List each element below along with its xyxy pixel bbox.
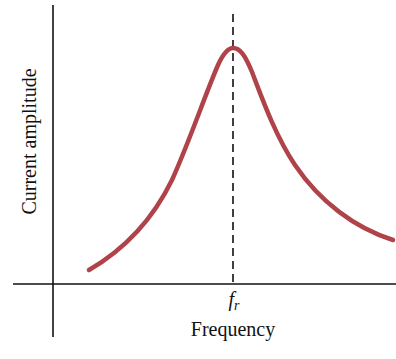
tick-subscript: r xyxy=(234,298,239,313)
x-axis-label: Frequency xyxy=(150,318,316,341)
x-tick-fr: fr xyxy=(214,288,254,314)
y-axis-label: Current amplitude xyxy=(18,57,41,227)
resonance-chart xyxy=(0,0,396,359)
resonance-curve xyxy=(89,48,393,270)
